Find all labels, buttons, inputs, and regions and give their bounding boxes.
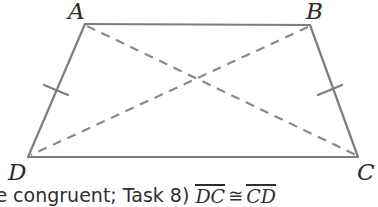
- caption-prefix-text: re congruent; Task 8): [0, 184, 189, 206]
- segment-cd-overline: CD: [246, 184, 276, 207]
- tick-mark-leg-BC: [318, 85, 342, 95]
- trapezoid-outline: [28, 24, 358, 157]
- diagonal-BD: [31, 27, 308, 155]
- vertex-label-d: D: [8, 161, 26, 184]
- vertex-label-c: C: [357, 161, 375, 184]
- tick-marks: [44, 85, 342, 95]
- diagonals: [31, 26, 356, 155]
- geometry-figure-screenshot: A B D C re congruent; Task 8) DC≅CD: [0, 0, 378, 207]
- caption-line: re congruent; Task 8) DC≅CD: [0, 184, 276, 207]
- trapezoid-diagram: [0, 0, 378, 207]
- diagonal-AC: [87, 26, 356, 155]
- congruent-symbol: ≅: [225, 185, 246, 206]
- segment-dc-overline: DC: [195, 184, 225, 207]
- vertex-label-a: A: [68, 0, 85, 23]
- side-AB: [85, 24, 310, 25]
- side-BC: [310, 25, 358, 157]
- caption-clipped-row: re congruent; Task 8) DC≅CD: [0, 184, 378, 207]
- vertex-label-b: B: [306, 0, 323, 23]
